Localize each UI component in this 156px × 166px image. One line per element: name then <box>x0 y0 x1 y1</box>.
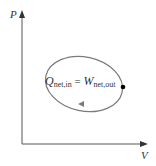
direction-arrow-icon <box>78 101 84 107</box>
energy-balance-equation: Qnet,in = Wnet,out <box>45 74 115 89</box>
heat-symbol: Q <box>45 74 54 88</box>
work-symbol: W <box>83 74 93 88</box>
x-axis-arrow-icon <box>140 141 148 147</box>
work-subscript: net,out <box>93 80 115 89</box>
state-point <box>121 85 126 90</box>
equals-sign: = <box>74 75 80 87</box>
y-axis-label: P <box>10 8 17 20</box>
heat-subscript: net,in <box>54 80 72 89</box>
pv-diagram: P V Qnet,in = Wnet,out <box>0 0 156 166</box>
y-axis-arrow-icon <box>19 10 25 18</box>
x-axis-label: V <box>141 149 148 161</box>
